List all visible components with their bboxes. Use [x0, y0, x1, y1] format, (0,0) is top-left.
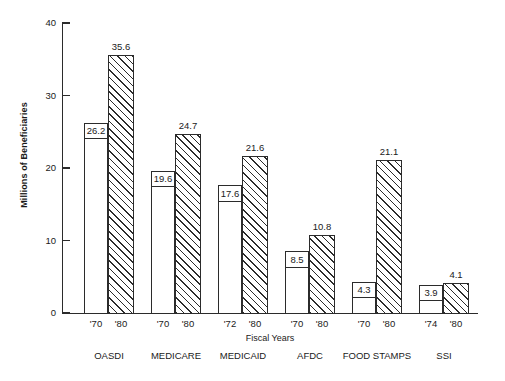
y-axis-tick-label: 0 [0, 308, 56, 318]
bar-medicare-80 [175, 134, 201, 314]
value-label: 4.3 [353, 283, 374, 298]
y-axis-tick-label: 30 [0, 91, 56, 101]
bar-ssi-80 [443, 283, 469, 314]
bar-medicaid-80 [242, 156, 268, 314]
x-axis-category-label: SSI [384, 350, 504, 362]
y-axis-tick-label: 20 [0, 163, 56, 173]
bar-afdc-80 [309, 235, 335, 314]
bar-chart: Millions of Beneficiaries 010203040 26.2… [0, 0, 505, 381]
value-label: 10.8 [297, 222, 347, 232]
y-axis-tick: 20 [0, 163, 56, 173]
bar-medicare-70 [151, 171, 175, 314]
x-axis-title: Fiscal Years [200, 333, 340, 344]
y-axis-tick-mark [62, 95, 70, 96]
value-label: 26.2 [85, 124, 106, 139]
y-axis-tick-mark [62, 22, 70, 23]
value-label: 8.5 [286, 253, 307, 268]
y-axis-tick: 30 [0, 91, 56, 101]
x-axis-year-label: '80 [165, 318, 211, 329]
y-axis-tick: 10 [0, 236, 56, 246]
value-label: 35.6 [96, 42, 146, 52]
y-axis-tick-mark [62, 240, 70, 241]
value-label: 3.9 [420, 286, 441, 301]
y-axis-tick: 0 [0, 308, 56, 318]
y-axis-tick: 40 [0, 18, 56, 28]
y-axis-tick-label: 10 [0, 236, 56, 246]
bar-oasdi-80 [108, 55, 134, 314]
x-axis-year-label: '80 [366, 318, 412, 329]
value-label: 4.1 [431, 270, 481, 280]
value-label: 19.6 [152, 172, 173, 187]
bar-oasdi-70 [84, 123, 108, 314]
value-label: 21.1 [364, 147, 414, 157]
x-axis-year-label: '80 [232, 318, 278, 329]
y-axis-tick-mark [62, 167, 70, 168]
value-label: 21.6 [230, 143, 280, 153]
x-axis-year-label: '80 [433, 318, 479, 329]
x-axis-year-label: '80 [299, 318, 345, 329]
bar-medicaid-72 [218, 185, 242, 314]
value-label: 24.7 [163, 121, 213, 131]
value-label: 17.6 [219, 187, 240, 202]
bar-food-stamps-80 [376, 160, 402, 314]
x-axis-year-label: '80 [98, 318, 144, 329]
y-axis-tick-mark [62, 312, 70, 313]
y-axis-tick-label: 40 [0, 18, 56, 28]
